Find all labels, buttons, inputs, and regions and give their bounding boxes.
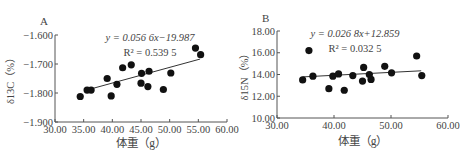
- data-point: [341, 87, 348, 94]
- x-axis-label: 体重（g）: [338, 134, 388, 148]
- data-point: [335, 70, 342, 77]
- y-tick-label: −1.600: [23, 30, 53, 41]
- data-point: [144, 83, 151, 90]
- x-tick-label: 30.00: [43, 124, 67, 135]
- chart-panel-a: −1.600−1.700−1.800−1.90030.0035.0040.004…: [5, 15, 239, 150]
- data-point: [104, 75, 111, 82]
- y-axis-label: δ13C（%）: [5, 53, 16, 104]
- data-point: [197, 51, 204, 58]
- data-point: [77, 93, 84, 100]
- data-point: [167, 69, 174, 76]
- data-point: [137, 80, 144, 87]
- y-tick-label: 12.00: [251, 91, 275, 102]
- x-tick-label: 50.00: [379, 120, 403, 131]
- x-tick-label: 35.00: [72, 124, 96, 135]
- regression-equation: y = 0.026 8x+12.859: [309, 28, 400, 39]
- data-point: [138, 70, 145, 77]
- x-tick-label: 55.00: [187, 124, 211, 135]
- y-tick-label: 14.00: [251, 69, 275, 80]
- data-point: [113, 81, 120, 88]
- data-point: [325, 85, 332, 92]
- chart-panel-b: 18.0016.0014.0012.0010.0030.0040.0050.00…: [239, 12, 460, 148]
- x-tick-label: 40.00: [101, 124, 125, 135]
- data-point: [388, 69, 395, 76]
- data-point: [145, 68, 152, 75]
- panel-label: B: [262, 12, 269, 24]
- data-point: [360, 64, 367, 71]
- y-tick-label: −1.700: [23, 59, 53, 70]
- y-tick-label: 18.00: [251, 26, 275, 37]
- x-tick-label: 40.00: [322, 120, 346, 131]
- data-point: [359, 77, 366, 84]
- regression-equation: y = 0.056 6x−19.987: [104, 32, 195, 43]
- data-point: [192, 44, 199, 51]
- data-point: [418, 72, 425, 79]
- data-point: [88, 87, 95, 94]
- y-tick-label: −1.800: [23, 88, 53, 99]
- r-squared: R² = 0.539 5: [124, 47, 177, 58]
- x-tick-label: 60.00: [215, 124, 239, 135]
- figure: −1.600−1.700−1.800−1.90030.0035.0040.004…: [0, 0, 472, 156]
- data-point: [160, 86, 167, 93]
- x-tick-label: 60.00: [436, 120, 460, 131]
- panel-label: A: [40, 15, 48, 27]
- x-tick-label: 30.00: [265, 120, 289, 131]
- y-axis-label: δ15N（%）: [239, 49, 250, 101]
- data-point: [309, 73, 316, 80]
- x-axis-label: 体重（g）: [116, 136, 166, 150]
- x-tick-label: 50.00: [158, 124, 182, 135]
- y-tick-label: 16.00: [251, 47, 275, 58]
- data-point: [108, 92, 115, 99]
- data-point: [128, 61, 135, 68]
- data-point: [299, 76, 306, 83]
- data-point: [381, 63, 388, 70]
- trendline: [303, 71, 422, 77]
- r-squared: R² = 0.032 5: [329, 43, 382, 54]
- data-point: [305, 47, 312, 54]
- data-point: [349, 72, 356, 79]
- data-point: [119, 64, 126, 71]
- data-point: [367, 76, 374, 83]
- data-point: [413, 52, 420, 59]
- x-tick-label: 45.00: [129, 124, 153, 135]
